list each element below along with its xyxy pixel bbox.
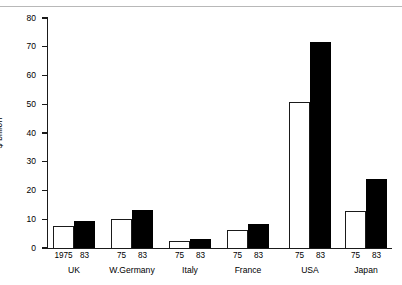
bar-uk-1975 xyxy=(53,226,74,248)
y-axis-tick xyxy=(42,17,47,18)
y-axis-tick xyxy=(42,132,47,133)
page-edge-line xyxy=(0,6,402,7)
y-axis-tick xyxy=(42,219,47,220)
y-axis-tick-label: 40 xyxy=(8,129,36,138)
y-axis-tick-label: 50 xyxy=(8,100,36,109)
y-axis-tick-label: 0 xyxy=(8,244,36,253)
x-axis-year-label: 83 xyxy=(363,252,391,260)
bar-chart: 01020304050607080 $ billion 197583UK7583… xyxy=(0,0,402,285)
x-axis-year-label: 83 xyxy=(187,252,215,260)
y-axis-tick-label: 70 xyxy=(8,42,36,51)
bar-italy-1975 xyxy=(169,241,190,248)
bar-japan-1975 xyxy=(345,211,366,248)
bar-wgermany-83 xyxy=(132,210,153,248)
y-axis-tick xyxy=(42,46,47,47)
y-axis-title: $ billion xyxy=(0,118,4,149)
bar-japan-83 xyxy=(366,179,387,248)
y-axis-tick xyxy=(42,247,47,248)
bar-france-1975 xyxy=(227,230,248,248)
bar-italy-83 xyxy=(190,239,211,248)
y-axis-tick xyxy=(42,161,47,162)
y-axis-tick xyxy=(42,75,47,76)
y-axis-tick-label: 30 xyxy=(8,157,36,166)
bar-wgermany-1975 xyxy=(111,219,132,248)
y-axis-tick-label: 20 xyxy=(8,186,36,195)
x-axis-group-label-japan: Japan xyxy=(331,266,401,275)
y-axis-tick-labels: 01020304050607080 xyxy=(0,0,42,285)
bar-uk-83 xyxy=(74,221,95,248)
x-axis-year-label: 83 xyxy=(129,252,157,260)
y-axis-tick-label: 60 xyxy=(8,71,36,80)
y-axis-tick xyxy=(42,190,47,191)
bar-usa-1975 xyxy=(289,102,310,248)
bar-france-83 xyxy=(248,224,269,248)
y-axis-tick-label: 10 xyxy=(8,215,36,224)
x-axis-year-label: 83 xyxy=(307,252,335,260)
bar-usa-83 xyxy=(310,42,331,248)
plot-area xyxy=(48,18,392,248)
x-axis-year-label: 83 xyxy=(71,252,99,260)
y-axis-tick-label: 80 xyxy=(8,14,36,23)
x-axis-year-label: 83 xyxy=(245,252,273,260)
y-axis-tick xyxy=(42,104,47,105)
x-axis-group-label-france: France xyxy=(213,266,283,275)
